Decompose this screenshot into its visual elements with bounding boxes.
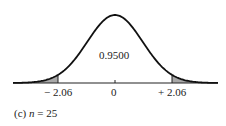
tick-label-positive-critical: + 2.06 [158,87,186,98]
tick-label-negative-critical: − 2.06 [44,87,72,98]
figure-caption: (c) n = 25 [14,108,57,119]
tick-label-zero: 0 [111,87,117,98]
central-area-label: 0.9500 [99,50,129,61]
